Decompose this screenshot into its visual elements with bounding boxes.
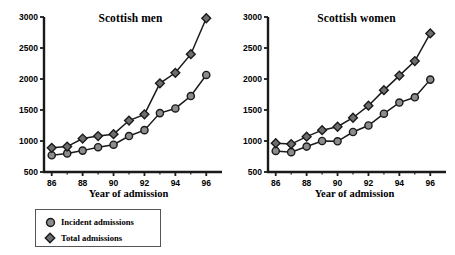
diamond-marker-icon	[271, 139, 280, 148]
series-line-total-admissions	[52, 18, 207, 148]
diamond-marker-icon	[202, 14, 211, 23]
y-axis-tick-label: 500	[228, 168, 262, 177]
legend-label: Incident admissions	[61, 217, 134, 227]
circle-marker-icon	[141, 127, 148, 134]
x-axis-tick-label: 90	[327, 179, 349, 188]
y-axis-tick-label: 1000	[228, 137, 262, 146]
legend-item-total-admissions: Total admissions	[42, 230, 160, 246]
diamond-marker-icon	[318, 126, 327, 135]
y-axis-tick-label: 2500	[228, 44, 262, 53]
circle-marker-icon	[79, 147, 86, 154]
y-axis-tick-label: 2000	[4, 75, 38, 84]
y-axis-tick-label: 2000	[228, 75, 262, 84]
x-axis-tick-label: 90	[103, 179, 125, 188]
y-axis-tick-label: 3000	[228, 13, 262, 22]
diamond-marker-icon	[94, 132, 103, 141]
circle-marker-icon	[318, 137, 325, 144]
x-axis-tick-label: 86	[41, 179, 63, 188]
circle-marker-icon	[411, 94, 418, 101]
diamond-marker-icon	[63, 142, 72, 151]
diamond-marker-icon	[287, 140, 296, 149]
figure-root: Scottish men Year of admission 500100015…	[0, 0, 455, 255]
y-axis-tick-label: 1500	[228, 106, 262, 115]
circle-marker-icon	[110, 141, 117, 148]
y-axis-tick-label: 1000	[4, 137, 38, 146]
diamond-marker-icon	[426, 29, 435, 38]
y-axis-tick-label: 3000	[4, 13, 38, 22]
circle-marker-icon	[172, 105, 179, 112]
diamond-marker-icon	[42, 231, 58, 245]
circle-marker-icon	[156, 110, 163, 117]
circle-marker-icon	[334, 138, 341, 145]
x-axis-tick-label: 96	[419, 179, 441, 188]
diamond-marker-icon	[302, 132, 311, 141]
circle-marker-icon	[396, 99, 403, 106]
diamond-marker-icon	[78, 134, 87, 143]
circle-marker-icon	[42, 215, 58, 229]
legend-label: Total admissions	[61, 233, 122, 243]
circle-marker-icon	[427, 76, 434, 83]
circle-marker-icon	[303, 143, 310, 150]
circle-marker-icon	[94, 144, 101, 151]
y-axis-tick-label: 500	[4, 168, 38, 177]
series-line-total-admissions	[276, 33, 431, 144]
diamond-marker-icon	[333, 122, 342, 131]
circle-marker-icon	[125, 132, 132, 139]
diamond-marker-icon	[156, 79, 165, 88]
x-axis-tick-label: 94	[164, 179, 186, 188]
chart-panel-scottish-men: Scottish men Year of admission 500100015…	[0, 0, 227, 205]
circle-marker-icon	[288, 149, 295, 156]
x-axis-tick-label: 88	[72, 179, 94, 188]
diamond-marker-icon	[140, 110, 149, 119]
y-axis-tick-label: 1500	[4, 106, 38, 115]
chart-legend: Incident admissions Total admissions	[35, 209, 161, 247]
legend-item-incident-admissions: Incident admissions	[42, 214, 160, 230]
plot-area-scottish-women	[228, 0, 455, 205]
y-axis-tick-label: 2500	[4, 44, 38, 53]
x-axis-tick-label: 92	[133, 179, 155, 188]
x-axis-title: Year of admission	[228, 188, 455, 199]
x-axis-tick-label: 92	[357, 179, 379, 188]
circle-marker-icon	[349, 128, 356, 135]
chart-panel-scottish-women: Scottish women Year of admission 5001000…	[228, 0, 455, 205]
circle-marker-icon	[380, 110, 387, 117]
x-axis-tick-label: 86	[265, 179, 287, 188]
circle-marker-icon	[203, 71, 210, 78]
circle-marker-icon	[187, 92, 194, 99]
circle-marker-icon	[365, 122, 372, 129]
x-axis-title: Year of admission	[0, 188, 227, 199]
x-axis-tick-label: 96	[195, 179, 217, 188]
diamond-marker-icon	[47, 143, 56, 152]
x-axis-tick-label: 94	[388, 179, 410, 188]
x-axis-tick-label: 88	[296, 179, 318, 188]
